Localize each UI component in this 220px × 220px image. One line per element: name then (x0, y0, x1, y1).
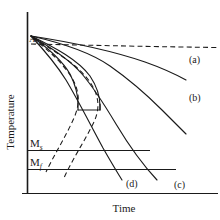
curve-label-c: (c) (174, 179, 185, 191)
austenite-start-asymptote-curve (31, 44, 218, 48)
mf-label: Mf (30, 156, 43, 171)
curve-label-d: (d) (126, 178, 138, 190)
curve-label-a: (a) (189, 54, 200, 66)
ms-label: Ms (30, 137, 43, 152)
x-axis-label: Time (113, 202, 136, 214)
martensite-lines-group (28, 151, 177, 170)
ttt-diagram-svg: A₃ Ms Mf (a) (b) (c) (d) Temperature Tim… (0, 0, 220, 220)
y-axis-label: Temperature (4, 94, 16, 150)
curve-d-path (31, 36, 122, 180)
ttt-diagram-figure: A₃ Ms Mf (a) (b) (c) (d) Temperature Tim… (0, 0, 220, 220)
start-point-label: A₃ (29, 34, 39, 44)
cooling-curves-group (31, 36, 186, 180)
curve-label-b: (b) (189, 92, 201, 104)
curve-a-path (31, 36, 186, 80)
